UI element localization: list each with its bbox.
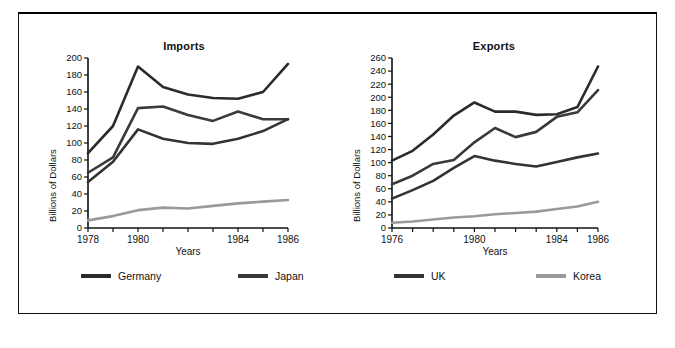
x-axis-label-imports: Years [88, 246, 288, 257]
svg-text:1984: 1984 [546, 234, 569, 245]
svg-text:1984: 1984 [227, 234, 250, 245]
svg-text:1980: 1980 [463, 234, 486, 245]
svg-text:140: 140 [66, 103, 82, 114]
legend-label-japan: Japan [275, 270, 304, 282]
figure-frame: Imports Billions of Dollars 020406080100… [18, 14, 657, 314]
svg-text:160: 160 [370, 118, 386, 129]
svg-text:220: 220 [370, 79, 386, 90]
chart-title-exports: Exports [339, 40, 649, 52]
chart-title-imports: Imports [29, 40, 339, 52]
plot-area-imports: 0204060801001201401601802001978198019841… [88, 58, 288, 228]
svg-text:60: 60 [71, 171, 82, 182]
svg-text:20: 20 [375, 209, 386, 220]
svg-text:240: 240 [370, 65, 386, 76]
svg-text:120: 120 [66, 120, 82, 131]
legend-swatch-uk [394, 274, 424, 278]
legend-label-korea: Korea [573, 270, 601, 282]
svg-text:100: 100 [66, 137, 82, 148]
svg-text:1976: 1976 [381, 234, 404, 245]
svg-text:180: 180 [66, 69, 82, 80]
svg-text:260: 260 [370, 52, 386, 63]
legend-item-korea: Korea [536, 266, 601, 286]
svg-text:0: 0 [77, 222, 82, 233]
svg-text:140: 140 [370, 131, 386, 142]
svg-text:60: 60 [375, 183, 386, 194]
legend-swatch-japan [238, 274, 268, 278]
svg-text:1986: 1986 [277, 234, 300, 245]
svg-text:160: 160 [66, 86, 82, 97]
svg-text:120: 120 [370, 144, 386, 155]
svg-text:1986: 1986 [587, 234, 610, 245]
svg-text:80: 80 [375, 170, 386, 181]
legend-label-germany: Germany [118, 270, 161, 282]
svg-text:1980: 1980 [127, 234, 150, 245]
legend-label-uk: UK [431, 270, 446, 282]
svg-text:80: 80 [71, 154, 82, 165]
legend-swatch-germany [81, 274, 111, 278]
svg-text:20: 20 [71, 205, 82, 216]
chart-panel-exports: Exports Billions of Dollars 020406080100… [339, 14, 649, 264]
svg-text:200: 200 [370, 92, 386, 103]
chart-legend: Germany Japan UK Korea [19, 266, 658, 296]
svg-text:40: 40 [375, 196, 386, 207]
chart-panel-imports: Imports Billions of Dollars 020406080100… [29, 14, 339, 264]
svg-text:100: 100 [370, 157, 386, 168]
x-axis-label-exports: Years [392, 246, 598, 257]
svg-text:40: 40 [71, 188, 82, 199]
svg-text:180: 180 [370, 105, 386, 116]
legend-item-japan: Japan [238, 266, 304, 286]
svg-text:200: 200 [66, 52, 82, 63]
legend-item-germany: Germany [81, 266, 161, 286]
svg-text:1978: 1978 [77, 234, 100, 245]
legend-swatch-korea [536, 274, 566, 278]
svg-text:0: 0 [381, 222, 386, 233]
plot-area-exports: 0204060801001201401601802002202402601976… [392, 58, 598, 228]
legend-item-uk: UK [394, 266, 446, 286]
